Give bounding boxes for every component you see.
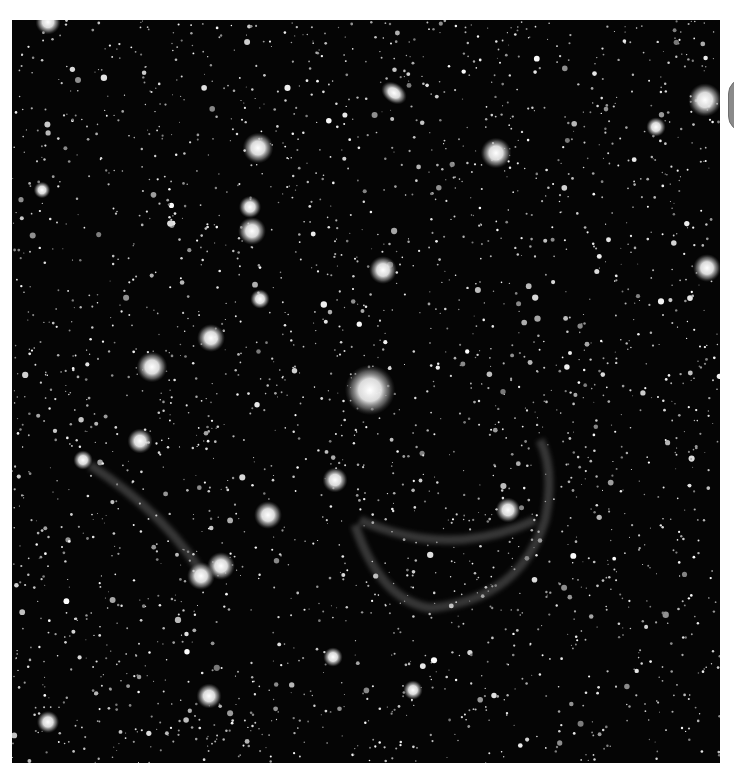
astronomical-image: [12, 20, 720, 763]
scroll-handle-icon[interactable]: [728, 78, 734, 132]
star-field: [12, 20, 720, 763]
